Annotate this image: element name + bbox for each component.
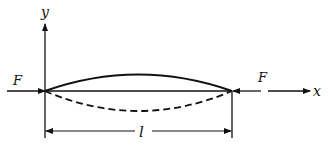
force-right-label: F bbox=[257, 70, 268, 85]
x-axis-label: x bbox=[313, 83, 321, 99]
y-axis-label: y bbox=[40, 4, 50, 20]
length-label: l bbox=[139, 123, 144, 141]
buckled-shape-solid bbox=[45, 75, 232, 92]
buckled-shape-dashed bbox=[45, 91, 232, 111]
force-left-label: F bbox=[12, 73, 23, 88]
buckling-diagram: y F F x l bbox=[0, 0, 329, 148]
